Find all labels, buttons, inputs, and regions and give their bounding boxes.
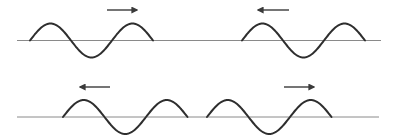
wave-diagram — [0, 0, 393, 140]
row-top — [17, 10, 381, 58]
row-bottom — [17, 87, 379, 134]
